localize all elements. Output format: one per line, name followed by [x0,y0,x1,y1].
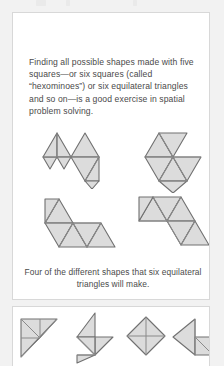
toolbar-ghost-icon-3[interactable] [133,0,137,6]
tangram-figure-group [13,307,209,365]
main-content-card: Finding all possible shapes made with fi… [12,12,210,300]
tangram-shape-3 [125,315,169,361]
hexiamond-shape-1 [41,127,115,189]
tangram-shape-1 [19,317,63,363]
hexiamond-shape-2 [141,125,207,193]
lower-content-card [12,306,210,366]
toolbar-ghost-icon-1[interactable] [36,0,46,6]
figure-caption: Four of the different shapes that six eq… [23,267,203,290]
toolbar-ghost-icon-2[interactable] [66,0,70,6]
body-paragraph: Finding all possible shapes made with fi… [29,56,199,118]
hexiamond-shape-4 [137,195,210,249]
tangram-shape-2 [71,311,117,365]
hexiamond-figure-group [13,121,209,253]
tangram-shape-4 [171,317,210,363]
hexiamond-shape-3 [39,197,125,249]
toolbar-strip [0,0,224,10]
